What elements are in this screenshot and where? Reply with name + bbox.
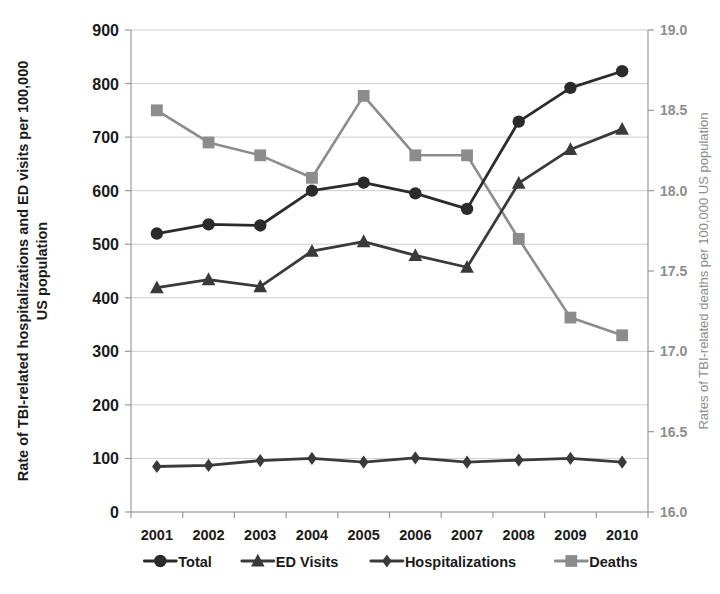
left-axis-tick-label: 900 <box>92 22 119 39</box>
data-point-square-marker <box>616 329 628 341</box>
x-axis-tick-label: 2008 <box>503 527 535 543</box>
right-axis-tick-label: 18.5 <box>660 102 687 118</box>
data-point-square-marker <box>358 90 370 102</box>
data-point-circle-marker <box>409 187 421 199</box>
left-axis-title-line: Rate of TBI-related hospitalizations and… <box>15 61 31 482</box>
data-point-circle-marker <box>564 82 576 94</box>
data-point-square-marker <box>565 312 577 324</box>
data-point-square-marker <box>513 233 525 245</box>
left-axis-tick-label: 800 <box>92 76 119 93</box>
right-axis-tick-label: 17.0 <box>660 343 687 359</box>
right-axis-tick-label: 17.5 <box>660 263 687 279</box>
left-axis-tick-label: 700 <box>92 129 119 146</box>
right-axis-title-text: Rates of TBI-related deaths per 100,000 … <box>696 112 711 429</box>
left-axis-tick-label: 0 <box>110 504 119 521</box>
data-point-circle-marker <box>254 219 266 231</box>
data-point-circle-marker <box>151 227 163 239</box>
right-axis-title: Rates of TBI-related deaths per 100,000 … <box>696 112 711 429</box>
right-axis-tick-label: 16.5 <box>660 424 687 440</box>
x-axis-tick-label: 2004 <box>296 527 328 543</box>
x-axis-tick-label: 2001 <box>141 527 173 543</box>
data-point-circle-marker <box>616 65 628 77</box>
left-axis-tick-label: 600 <box>92 183 119 200</box>
right-axis-tick-label: 19.0 <box>660 22 687 38</box>
x-axis-tick-label: 2003 <box>244 527 276 543</box>
left-axis-tick-label: 400 <box>92 290 119 307</box>
x-axis-tick-label: 2006 <box>399 527 431 543</box>
left-axis-tick-label: 300 <box>92 343 119 360</box>
left-axis-tick-label: 200 <box>92 397 119 414</box>
right-axis-tick-label: 18.0 <box>660 183 687 199</box>
data-point-square-marker <box>461 149 473 161</box>
data-point-circle-marker <box>513 115 525 127</box>
x-axis-tick-label: 2005 <box>348 527 380 543</box>
data-point-circle-marker <box>461 203 473 215</box>
data-point-square-marker <box>151 104 163 116</box>
data-point-circle-marker <box>154 555 166 567</box>
legend-label: ED Visits <box>276 554 339 570</box>
left-axis-title-line: US population <box>34 222 50 320</box>
tbi-rates-line-chart: 0100200300400500600700800900 16.016.517.… <box>0 0 720 594</box>
legend-label: Deaths <box>589 554 637 570</box>
x-axis-tick-label: 2009 <box>554 527 586 543</box>
legend-label: Total <box>178 554 212 570</box>
data-point-circle-marker <box>357 176 369 188</box>
data-point-circle-marker <box>306 184 318 196</box>
data-point-square-marker <box>306 172 318 184</box>
data-point-circle-marker <box>202 218 214 230</box>
left-axis-tick-label: 500 <box>92 236 119 253</box>
legend-label: Hospitalizations <box>405 554 516 570</box>
x-axis-tick-label: 2010 <box>606 527 638 543</box>
chart-container: 0100200300400500600700800900 16.016.517.… <box>0 0 720 594</box>
data-point-square-marker <box>254 149 266 161</box>
data-point-square-marker <box>565 555 577 567</box>
x-axis-tick-label: 2007 <box>451 527 483 543</box>
data-point-square-marker <box>409 149 421 161</box>
right-axis-tick-label: 16.0 <box>660 504 687 520</box>
data-point-square-marker <box>203 137 215 149</box>
left-axis-tick-label: 100 <box>92 450 119 467</box>
x-axis-tick-label: 2002 <box>192 527 224 543</box>
